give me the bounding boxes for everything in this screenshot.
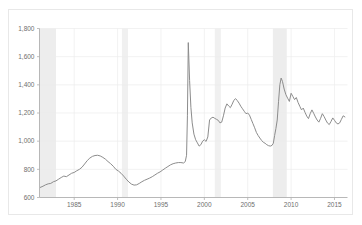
- x-tick-label: 2000: [197, 201, 212, 208]
- line-chart-plot: 6008001,0001,2001,4001,6001,800 19851990…: [0, 0, 362, 225]
- x-tick-label: 1990: [110, 201, 125, 208]
- y-tick-label: 1,800: [18, 25, 35, 32]
- x-tick-label: 2015: [327, 201, 342, 208]
- y-tick-label: 1,000: [18, 137, 35, 144]
- data-line-series-1: [40, 43, 345, 188]
- y-tick-label: 600: [24, 194, 35, 201]
- x-tick-label: 2005: [240, 201, 255, 208]
- x-tick-label: 1985: [67, 201, 82, 208]
- x-tick-label: 1995: [154, 201, 169, 208]
- chart-figure: 6008001,0001,2001,4001,6001,800 19851990…: [0, 0, 362, 225]
- data-series-group: [40, 43, 345, 188]
- x-tick-label: 2010: [284, 201, 299, 208]
- y-axis-tick-labels: 6008001,0001,2001,4001,6001,800: [18, 25, 35, 201]
- tick-marks-group: [37, 29, 334, 201]
- y-tick-label: 1,600: [18, 53, 35, 60]
- x-axis-tick-labels: 1985199019952000200520102015: [67, 201, 342, 208]
- y-tick-label: 800: [24, 166, 35, 173]
- y-tick-label: 1,200: [18, 109, 35, 116]
- y-tick-label: 1,400: [18, 81, 35, 88]
- grid-lines-group: [40, 29, 348, 198]
